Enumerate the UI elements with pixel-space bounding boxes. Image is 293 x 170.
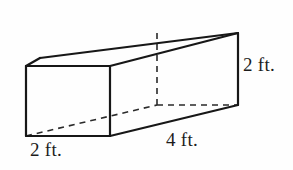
top-front-long-edge [110, 33, 238, 66]
dimension-label-width: 2 ft. [30, 140, 62, 159]
dimension-label-length: 4 ft. [166, 130, 198, 149]
dimension-label-height: 2 ft. [243, 55, 275, 74]
hidden-edges-group [26, 33, 238, 136]
hidden-bottom-diagonal-edge [26, 105, 157, 136]
visible-edges-group [26, 33, 238, 136]
top-left-receding-edge [26, 58, 40, 66]
top-back-long-edge [40, 33, 238, 58]
rectangular-prism-figure: 2 ft. 4 ft. 2 ft. [0, 0, 293, 170]
